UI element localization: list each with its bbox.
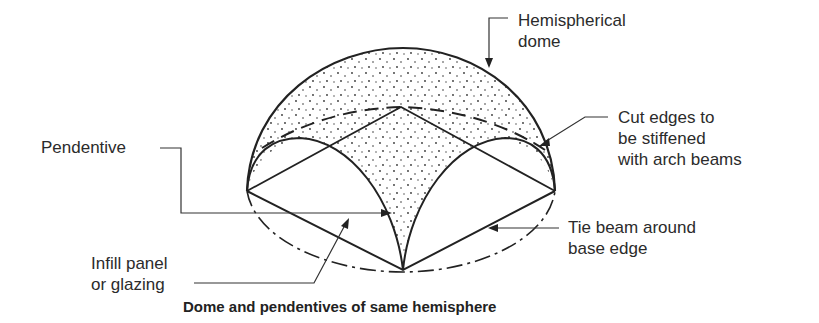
label-line: Hemispherical	[518, 10, 626, 31]
arrowhead	[485, 58, 493, 68]
label-line: Tie beam around	[568, 217, 696, 238]
dome-surface	[247, 48, 555, 270]
label-line: base edge	[568, 238, 696, 259]
label-line: be stiffened	[618, 128, 742, 149]
label-infill-panel: Infill panel or glazing	[91, 253, 168, 295]
figure-caption: Dome and pendentives of same hemisphere	[183, 298, 496, 315]
label-hemispherical-dome: Hemispherical dome	[518, 10, 626, 52]
label-line: Cut edges to	[618, 107, 742, 128]
leader-dome	[489, 18, 508, 62]
label-line: dome	[518, 31, 626, 52]
label-cut-edges: Cut edges to be stiffened with arch beam…	[618, 107, 742, 170]
label-line: or glazing	[91, 274, 168, 295]
leader-cut-edges	[545, 117, 608, 142]
label-line: Pendentive	[41, 138, 126, 157]
label-line: with arch beams	[618, 149, 742, 170]
label-line: Infill panel	[91, 253, 168, 274]
label-pendentive: Pendentive	[41, 137, 126, 158]
label-tie-beam: Tie beam around base edge	[568, 217, 696, 259]
leader-infill	[194, 225, 345, 283]
arrowhead	[341, 218, 349, 229]
